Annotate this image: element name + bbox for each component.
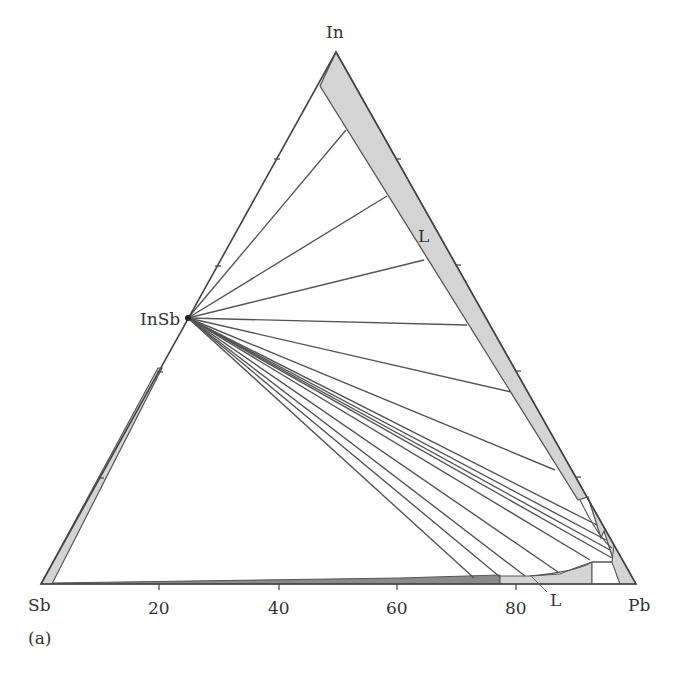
phase-label-liquid-lower: L	[550, 590, 561, 610]
liquid-band-bottom	[500, 562, 592, 584]
bottom-band-dark	[52, 575, 500, 584]
tick-label-60: 60	[386, 598, 408, 618]
tick-label-40: 40	[268, 598, 290, 618]
vertex-label-pb: Pb	[628, 595, 650, 615]
vertex-label-sb: Sb	[28, 595, 51, 615]
compound-label-insb: InSb	[140, 309, 180, 329]
ternary-phase-diagram	[0, 0, 690, 675]
vertex-label-in: In	[326, 22, 344, 42]
triangle-frame	[41, 52, 636, 584]
tick-label-20: 20	[148, 598, 170, 618]
phase-label-liquid-upper: L	[418, 226, 429, 246]
insb-point	[185, 315, 191, 321]
liquid-band-in-pb	[320, 52, 636, 584]
panel-label: (a)	[28, 628, 51, 648]
tick-label-80: 80	[505, 598, 527, 618]
